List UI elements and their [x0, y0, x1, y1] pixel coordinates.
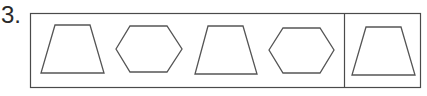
- shape-sequence-figure: [0, 0, 427, 96]
- hexagon-shape-1: [116, 26, 182, 72]
- trapezoid-shape-1: [41, 25, 104, 73]
- hexagon-shape-2: [269, 28, 334, 73]
- trapezoid-shape-2: [195, 26, 257, 74]
- answer-trapezoid-shape: [352, 27, 415, 75]
